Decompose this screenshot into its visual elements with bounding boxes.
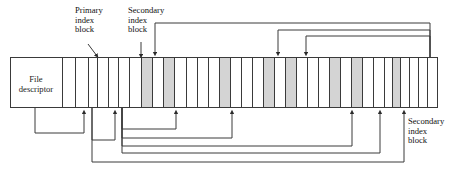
primary-index-callout <box>88 44 97 56</box>
shaded-index-cell-2 <box>163 58 174 108</box>
bottom-connector-7 <box>92 108 404 162</box>
bottom-connector-5 <box>122 108 352 146</box>
shaded-index-cell-1 <box>141 58 152 108</box>
secondary-index-block-top-label: Secondary index block <box>128 6 164 35</box>
top-connector-2 <box>278 30 430 57</box>
bottom-connector-1 <box>35 108 84 133</box>
secondary-index-block-right-label: Secondary index block <box>408 117 444 146</box>
top-connector-1 <box>155 23 430 57</box>
file-descriptor-label-line2: descriptor <box>12 84 60 94</box>
bottom-connector-3 <box>122 108 176 129</box>
primary-index-block-label: Primary index block <box>75 6 103 35</box>
shaded-index-cell-3 <box>219 58 230 108</box>
callout-arrows <box>88 42 141 56</box>
shaded-index-cell-4 <box>263 58 274 108</box>
secondary-index-block-right-label-line3: block <box>408 136 444 146</box>
index-block-cells <box>141 58 400 108</box>
shaded-index-cell-6 <box>329 58 340 108</box>
file-index-block-diagram: Primary index block Secondary index bloc… <box>0 0 450 180</box>
bottom-connectors <box>35 108 404 162</box>
shaded-index-cell-8 <box>392 58 400 108</box>
diagram-canvas <box>0 0 450 180</box>
top-connector-3 <box>306 36 430 57</box>
file-descriptor-label-line1: File <box>12 74 60 84</box>
primary-index-block-label-line3: block <box>75 25 103 35</box>
shaded-index-cell-5 <box>285 58 296 108</box>
file-descriptor-label: File descriptor <box>12 74 60 94</box>
shaded-index-cell-7 <box>351 58 362 108</box>
bottom-connector-2 <box>92 108 115 140</box>
bottom-connector-4 <box>122 108 232 138</box>
secondary-index-block-top-label-line3: block <box>128 25 164 35</box>
top-connectors <box>155 23 430 57</box>
